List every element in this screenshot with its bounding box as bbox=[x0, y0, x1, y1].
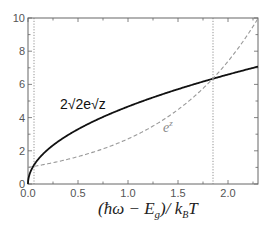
y-tick-label: 2 bbox=[19, 145, 25, 157]
sqrt-curve bbox=[28, 67, 258, 184]
chart-svg: 0.00.51.01.52.00246810 bbox=[0, 0, 273, 229]
y-tick-label: 4 bbox=[19, 112, 25, 124]
x-axis-label-part2: )/ k bbox=[160, 199, 182, 218]
x-axis-label: (ħω − Eg)/ kBT bbox=[98, 199, 198, 220]
y-tick-label: 10 bbox=[13, 12, 25, 24]
solid-curve-annotation: 2√2e√z bbox=[60, 96, 106, 112]
axis-tick-labels: 0.00.51.01.52.00246810 bbox=[13, 12, 236, 199]
y-tick-label: 8 bbox=[19, 45, 25, 57]
exp-curve bbox=[28, 18, 258, 167]
y-tick-label: 6 bbox=[19, 78, 25, 90]
dashed-curve-annotation: ez bbox=[163, 118, 173, 136]
x-axis-label-part1: (ħω − E bbox=[98, 199, 155, 218]
y-tick-label: 0 bbox=[19, 178, 25, 190]
x-tick-label: 1.5 bbox=[170, 187, 185, 199]
x-axis-label-part3: T bbox=[188, 199, 197, 218]
dashed-annotation-exponent: z bbox=[169, 118, 173, 128]
x-tick-label: 1.0 bbox=[120, 187, 135, 199]
x-tick-label: 2.0 bbox=[220, 187, 235, 199]
x-tick-label: 0.5 bbox=[70, 187, 85, 199]
